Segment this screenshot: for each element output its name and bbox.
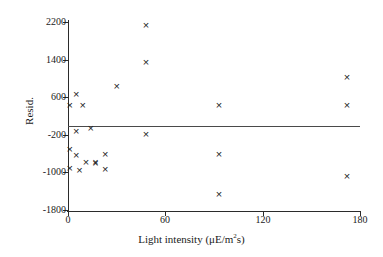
data-point xyxy=(72,151,81,160)
residual-scatter-plot: Resid. -1800-1000-20060014002200 0601201… xyxy=(0,0,383,257)
data-point xyxy=(65,101,74,110)
data-point xyxy=(343,101,352,110)
data-point xyxy=(81,158,90,167)
data-point xyxy=(72,90,81,99)
y-tick-label: -200 xyxy=(48,130,66,140)
y-axis-title: Resid. xyxy=(23,76,35,146)
x-axis-title-suffix: s) xyxy=(237,233,245,245)
data-point xyxy=(91,159,100,168)
x-tick-label: 0 xyxy=(48,214,88,225)
data-point xyxy=(343,172,352,181)
x-tick-label: 60 xyxy=(145,214,185,225)
data-point xyxy=(101,165,110,174)
data-point xyxy=(112,82,121,91)
data-point xyxy=(141,130,150,139)
x-axis-title-prefix: Light intensity (μE/m xyxy=(138,233,233,245)
y-tick-label: 600 xyxy=(51,92,66,102)
data-point xyxy=(141,21,150,30)
data-point xyxy=(65,164,74,173)
y-tick-label: 2200 xyxy=(46,17,66,27)
x-axis-line xyxy=(67,211,361,212)
data-point xyxy=(343,73,352,82)
x-tick-label: 180 xyxy=(340,214,380,225)
data-point xyxy=(72,127,81,136)
data-point xyxy=(86,124,95,133)
data-point xyxy=(141,58,150,67)
data-point xyxy=(214,190,223,199)
x-tick-label: 120 xyxy=(243,214,283,225)
data-point xyxy=(214,101,223,110)
data-point xyxy=(101,150,110,159)
data-point xyxy=(78,101,87,110)
y-tick-label: -1000 xyxy=(43,167,66,177)
y-tick-label: 1400 xyxy=(46,55,66,65)
data-point xyxy=(214,150,223,159)
data-points-layer xyxy=(68,22,360,210)
x-axis-title: Light intensity (μE/m2s) xyxy=(0,232,383,245)
